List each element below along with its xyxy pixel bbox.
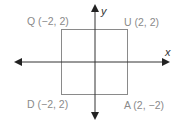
vertex-label-q: Q (−2, 2) bbox=[27, 16, 69, 27]
vertex-label-a: A (2, −2) bbox=[124, 100, 164, 111]
coordinate-plane: y x Q (−2, 2) U (2, 2) D (−2, 2) A (2, −… bbox=[0, 0, 185, 128]
vertex-label-d: D (−2, 2) bbox=[27, 99, 68, 110]
vertex-label-u: U (2, 2) bbox=[124, 17, 159, 28]
y-axis-label: y bbox=[101, 6, 107, 17]
x-axis-label: x bbox=[165, 47, 171, 58]
